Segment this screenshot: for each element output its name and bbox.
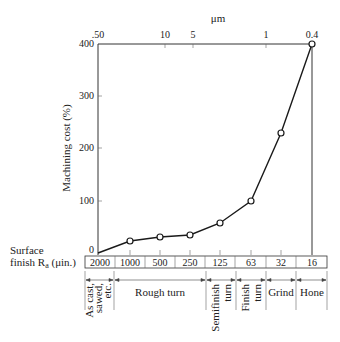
process-grind: Grind: [268, 286, 294, 298]
svg-text:etc.: etc.: [101, 283, 113, 299]
cost-line: [98, 44, 312, 253]
svg-text:500: 500: [153, 257, 168, 268]
process-semifinish-turn: Semifinish turn: [209, 284, 233, 332]
surface-label-line1: Surface: [10, 244, 44, 256]
surface-label-line2: finish Ra (μin.): [10, 256, 76, 270]
svg-text:32: 32: [276, 257, 286, 268]
svg-text:250: 250: [183, 257, 198, 268]
y-axis-label: Machining cost (%): [60, 104, 73, 192]
svg-text:0: 0: [89, 244, 94, 255]
svg-text:2000: 2000: [90, 257, 110, 268]
svg-text:100: 100: [79, 195, 94, 206]
svg-text:63: 63: [246, 257, 256, 268]
surface-finish-cells: 2000 1000 500 250 125 63 32 16: [90, 256, 317, 268]
svg-text:16: 16: [307, 257, 317, 268]
svg-text:400: 400: [79, 38, 94, 49]
svg-text:10: 10: [160, 29, 170, 40]
data-points: [127, 41, 315, 244]
top-axis-unit: μm: [211, 12, 226, 24]
x-axis-ticks: [130, 250, 281, 255]
svg-text:0.4: 0.4: [306, 29, 319, 40]
svg-text:125: 125: [213, 257, 228, 268]
process-finish-turn: Finish turn: [239, 284, 263, 312]
svg-text:1000: 1000: [120, 257, 140, 268]
process-hone: Hone: [300, 286, 324, 298]
svg-text:200: 200: [79, 142, 94, 153]
svg-text:turn: turn: [251, 284, 263, 302]
svg-text:Finish: Finish: [239, 284, 251, 312]
process-as-cast: As cast, sawed, etc.: [83, 283, 113, 318]
svg-text:Semifinish: Semifinish: [209, 284, 221, 332]
y-axis-ticks: 0 100 200 300 400: [79, 38, 102, 255]
svg-text:300: 300: [79, 90, 94, 101]
process-rough-turn: Rough turn: [135, 286, 185, 298]
svg-text:1: 1: [264, 29, 269, 40]
chart: μm .50 10 5 1 0.4 0 100 200 300 400 Mach…: [0, 0, 340, 342]
svg-text:turn: turn: [221, 284, 233, 302]
top-axis-ticks: .50 10 5 1 0.4: [92, 29, 319, 48]
svg-text:5: 5: [191, 29, 196, 40]
